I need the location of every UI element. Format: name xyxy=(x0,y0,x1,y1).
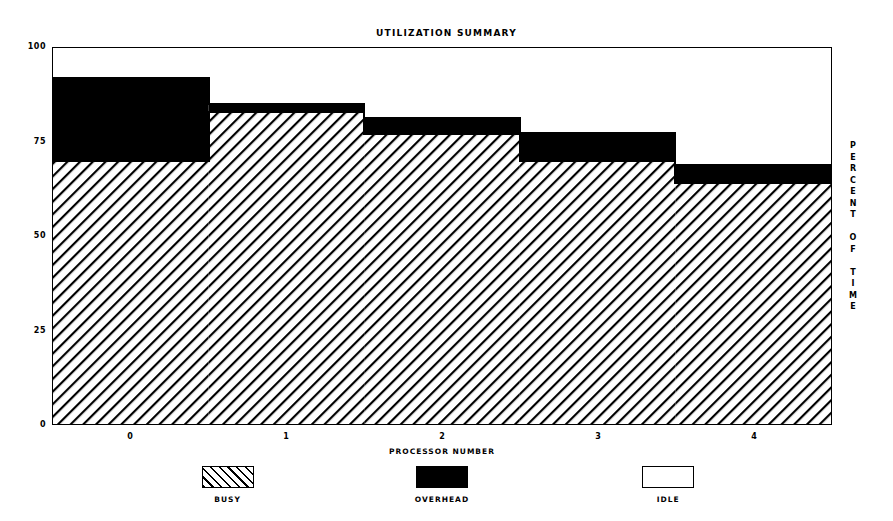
bar-segment-busy-4 xyxy=(675,183,831,424)
legend-label-overhead: OVERHEAD xyxy=(352,495,532,504)
bar-segment-idle-3 xyxy=(520,48,676,133)
legend-entry-overhead[interactable]: OVERHEAD xyxy=(352,466,532,504)
bar-segment-overhead-1 xyxy=(209,104,365,112)
x-axis-title: PROCESSOR NUMBER xyxy=(52,447,832,456)
bar-segment-idle-0 xyxy=(53,48,209,78)
y-axis-title: P E R C E N T O F T I M E xyxy=(843,140,863,313)
bar-segment-busy-2 xyxy=(364,134,520,424)
bar-segment-busy-0 xyxy=(53,161,209,424)
y-axis-tick-50: 50 xyxy=(4,232,46,240)
bar-segment-busy-1 xyxy=(209,112,365,424)
legend-label-idle: IDLE xyxy=(578,495,758,504)
utilization-summary-chart: UTILIZATION SUMMARY 1007550250 01234 PRO… xyxy=(0,0,893,521)
y-axis-tick-0: 0 xyxy=(4,421,46,429)
bar-segment-idle-4 xyxy=(675,48,831,165)
stacked-bar-regions xyxy=(53,48,831,424)
legend-swatch-idle-icon xyxy=(642,466,694,488)
bar-segment-idle-2 xyxy=(364,48,520,118)
bar-segment-idle-1 xyxy=(209,48,365,104)
legend-swatch-overhead-icon xyxy=(416,466,468,488)
x-axis-tick-1: 1 xyxy=(266,432,306,441)
bar-segment-overhead-3 xyxy=(520,133,676,161)
y-axis-tick-labels: 1007550250 xyxy=(0,0,46,521)
plot-area xyxy=(52,47,832,425)
y-axis-tick-100: 100 xyxy=(4,43,46,51)
legend-entry-busy[interactable]: BUSY xyxy=(138,466,318,504)
bar-segment-overhead-0 xyxy=(53,78,209,161)
x-axis-tick-labels: 01234 xyxy=(52,432,832,448)
legend-swatch-busy-icon xyxy=(202,466,254,488)
bar-segment-overhead-2 xyxy=(364,118,520,135)
x-axis-tick-3: 3 xyxy=(578,432,618,441)
chart-title: UTILIZATION SUMMARY xyxy=(0,28,893,38)
legend-entry-idle[interactable]: IDLE xyxy=(578,466,758,504)
y-axis-tick-75: 75 xyxy=(4,138,46,146)
x-axis-tick-0: 0 xyxy=(110,432,150,441)
bar-segment-overhead-4 xyxy=(675,165,831,184)
bar-segment-busy-3 xyxy=(520,161,676,424)
legend-label-busy: BUSY xyxy=(138,495,318,504)
y-axis-tick-25: 25 xyxy=(4,327,46,335)
x-axis-tick-2: 2 xyxy=(422,432,462,441)
chart-legend: BUSYOVERHEADIDLE xyxy=(52,466,832,516)
x-axis-tick-4: 4 xyxy=(734,432,774,441)
